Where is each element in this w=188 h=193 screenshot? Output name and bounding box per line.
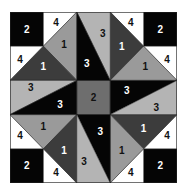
piece-number-label: 1 xyxy=(142,61,148,72)
quilt-piece-corner-br: 2 xyxy=(144,149,177,183)
piece-number-label: 3 xyxy=(154,102,160,113)
piece-number-label: 2 xyxy=(24,160,30,171)
piece-number-label: 3 xyxy=(97,126,103,137)
piece-number-label: 3 xyxy=(124,85,130,96)
piece-number-label: 1 xyxy=(41,121,47,132)
quilt-piece-corner-bl: 2 xyxy=(10,149,43,183)
piece-number-label: 3 xyxy=(84,58,90,69)
piece-number-label: 4 xyxy=(17,54,23,65)
piece-number-label: 4 xyxy=(17,130,23,141)
piece-number-label: 4 xyxy=(53,17,59,28)
quilt-piece-corner-tr: 2 xyxy=(144,12,177,46)
piece-number-label: 2 xyxy=(158,24,164,35)
quilt-svg: 22222441144114411441133333333 xyxy=(10,12,177,183)
piece-number-label: 2 xyxy=(24,24,30,35)
piece-number-label: 1 xyxy=(41,61,47,72)
piece-number-label: 1 xyxy=(119,41,125,52)
quilt-piece-corner-tl: 2 xyxy=(10,12,43,46)
piece-number-label: 3 xyxy=(57,99,63,110)
piece-number-label: 4 xyxy=(164,130,170,141)
piece-number-label: 3 xyxy=(28,82,34,93)
piece-number-label: 4 xyxy=(128,167,134,178)
piece-number-label: 1 xyxy=(119,145,125,156)
piece-number-label: 3 xyxy=(81,156,87,167)
piece-number-label: 1 xyxy=(61,145,67,156)
piece-number-label: 4 xyxy=(128,17,134,28)
piece-number-label: 2 xyxy=(158,160,164,171)
piece-number-label: 4 xyxy=(164,54,170,65)
piece-number-label: 2 xyxy=(91,92,97,103)
quilt-piece-center: 2 xyxy=(77,80,110,114)
piece-number-label: 3 xyxy=(100,28,106,39)
quilt-block-diagram: 22222441144114411441133333333 xyxy=(10,12,177,183)
piece-number-label: 1 xyxy=(61,39,67,50)
piece-number-label: 4 xyxy=(53,167,59,178)
piece-number-label: 1 xyxy=(141,123,147,134)
